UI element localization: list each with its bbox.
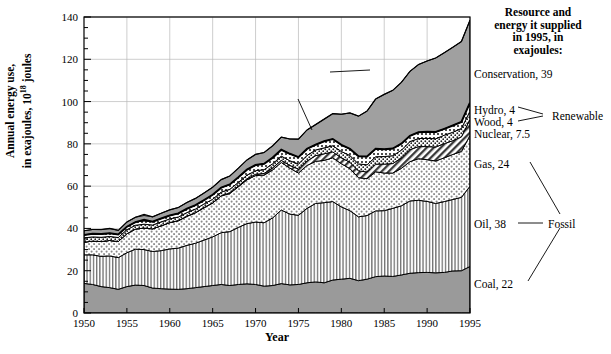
y-tick-label: 40 [67, 222, 79, 234]
x-tick-label: 1990 [416, 317, 439, 329]
x-tick-label: 1980 [330, 317, 353, 329]
x-tick-label: 1995 [459, 317, 482, 329]
y-tick-label: 140 [62, 11, 79, 23]
leader-line [518, 107, 543, 114]
y-tick-label: 100 [62, 96, 79, 108]
x-tick-label: 1975 [287, 317, 310, 329]
leader-line [528, 228, 560, 281]
x-tick-label: 1960 [159, 317, 182, 329]
y-tick-label: 120 [62, 53, 79, 65]
y-tick-label: 60 [67, 180, 79, 192]
x-tick-label: 1970 [245, 317, 268, 329]
plot-canvas: 0204060801001201401950195519601965197019… [0, 0, 611, 354]
x-tick-label: 1950 [73, 317, 96, 329]
x-tick-label: 1985 [373, 317, 396, 329]
y-tick-label: 80 [67, 138, 79, 150]
leader-line [518, 116, 543, 121]
x-tick-label: 1955 [116, 317, 139, 329]
leader-line [530, 162, 560, 214]
x-tick-label: 1965 [202, 317, 225, 329]
y-tick-label: 20 [67, 265, 79, 277]
chart-figure: Annual energy use, in exajoules, 1018 jo… [0, 0, 611, 354]
